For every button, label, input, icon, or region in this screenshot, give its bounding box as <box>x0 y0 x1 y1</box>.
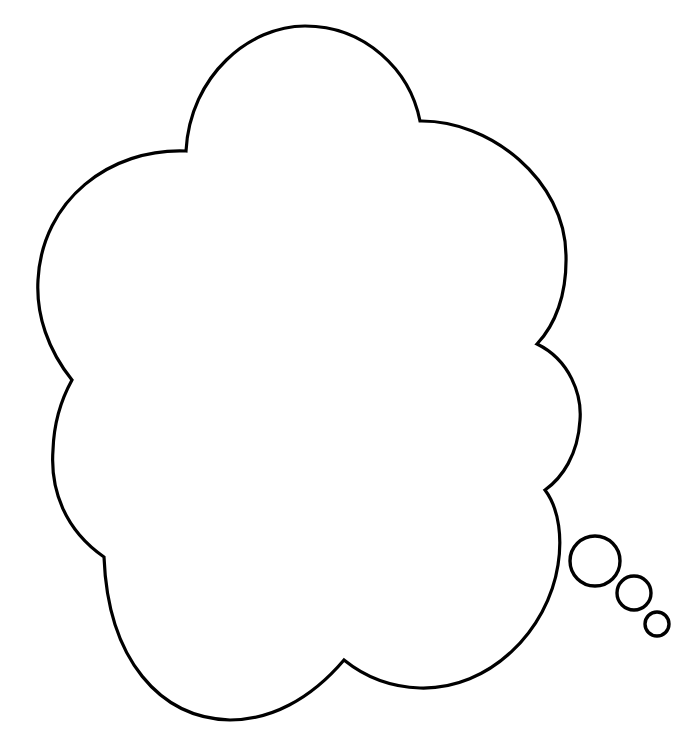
tail-bubble-medium <box>617 576 651 610</box>
tail-bubble-large <box>570 536 620 586</box>
thought-cloud-shape <box>38 26 580 720</box>
thought-bubble-canvas: Thought bubble Empty thought cloud Thoug… <box>0 0 686 752</box>
tail-bubble-small <box>645 612 669 636</box>
thought-bubble-svg <box>0 0 686 752</box>
